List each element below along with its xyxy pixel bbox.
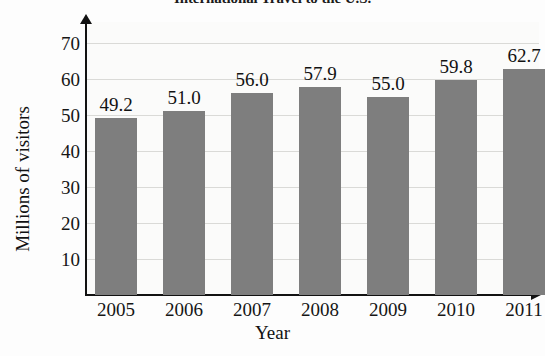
chart-title: International Travel to the U.S.: [0, 0, 545, 7]
gridline: [85, 43, 539, 44]
bar: [231, 93, 273, 295]
x-axis-title: Year: [0, 322, 545, 344]
y-axis-tick-label: 70: [38, 34, 80, 53]
y-axis-tick-label: 20: [38, 214, 80, 233]
bar: [299, 87, 341, 295]
y-axis-line: [85, 22, 87, 296]
x-axis-tick-label: 2005: [82, 299, 150, 321]
bar: [503, 69, 545, 295]
y-axis-title: Millions of visitors: [12, 74, 34, 284]
bar: [95, 118, 137, 295]
y-axis-tick-label: 40: [38, 142, 80, 161]
y-axis-tick-label: 50: [38, 106, 80, 125]
y-axis-tick-labels: 10203040506070: [36, 0, 80, 356]
bar-value-label: 49.2: [82, 95, 150, 114]
x-axis-tick-label: 2009: [354, 299, 422, 321]
bar: [435, 80, 477, 295]
bar-value-label: 57.9: [286, 64, 354, 83]
y-axis-arrow-icon: [80, 14, 92, 24]
bar-value-label: 55.0: [354, 74, 422, 93]
y-axis-tick-label: 30: [38, 178, 80, 197]
bar-chart: International Travel to the U.S. 1020304…: [0, 0, 545, 356]
bar-value-label: 51.0: [150, 88, 218, 107]
bar-value-label: 59.8: [422, 57, 490, 76]
bar-value-label: 62.7: [490, 46, 545, 65]
x-axis-tick-label: 2011: [490, 299, 545, 321]
y-axis-tick-label: 10: [38, 250, 80, 269]
x-axis-tick-label: 2008: [286, 299, 354, 321]
x-axis-tick-label: 2006: [150, 299, 218, 321]
y-axis-tick-label: 60: [38, 70, 80, 89]
bar: [367, 97, 409, 295]
bar-value-label: 56.0: [218, 70, 286, 89]
x-axis-tick-label: 2007: [218, 299, 286, 321]
x-axis-tick-label: 2010: [422, 299, 490, 321]
bar: [163, 111, 205, 295]
